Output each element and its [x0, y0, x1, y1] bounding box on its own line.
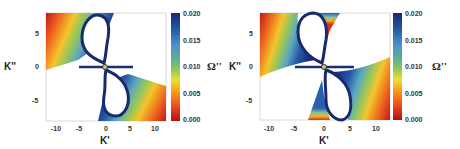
xtick: 5	[128, 125, 132, 132]
plot-panel-2: 5 0 -5 -10 -5 0 5 10 0.020 0.015 0.010 0…	[230, 0, 460, 149]
plot-panel-1: 5 0 -5 -10 -5 0 5 10 0.020 0.015 0.010 0…	[0, 0, 230, 149]
xtick: 10	[372, 125, 380, 132]
xtick: 10	[151, 125, 159, 132]
cbtick: 0.020	[183, 10, 201, 17]
colorbar-label: Ω''	[432, 60, 447, 72]
xtick: 0	[104, 125, 108, 132]
cbtick: 0.000	[183, 116, 201, 123]
cbtick: 0.000	[405, 116, 423, 123]
cbtick: 0.005	[183, 90, 201, 97]
cbtick: 0.010	[183, 63, 201, 70]
cbtick: 0.015	[405, 37, 423, 44]
xtick: -10	[51, 125, 61, 132]
cbtick: 0.005	[405, 90, 423, 97]
cbtick: 0.015	[183, 37, 201, 44]
ytick: 0	[35, 63, 39, 70]
x-axis-label: K'	[100, 135, 110, 146]
cbtick: 0.020	[405, 10, 423, 17]
ytick: -5	[32, 97, 38, 104]
cbtick: 0.010	[405, 63, 423, 70]
colorbar-label: Ω''	[207, 60, 222, 72]
y-axis-label: K''	[229, 61, 241, 72]
xtick: 5	[348, 125, 352, 132]
xtick: -5	[291, 125, 297, 132]
xtick: -10	[264, 125, 274, 132]
xtick: 0	[322, 125, 326, 132]
xtick: -5	[76, 125, 82, 132]
colorbar-1	[171, 13, 180, 121]
ytick: 5	[35, 30, 39, 37]
y-axis-label: K''	[4, 61, 16, 72]
ytick: -5	[246, 97, 252, 104]
colorbar-2	[393, 13, 402, 120]
ytick: 0	[249, 63, 253, 70]
ytick: 5	[249, 30, 253, 37]
plot-1-canvas	[0, 0, 230, 149]
x-axis-label: K'	[319, 135, 329, 146]
